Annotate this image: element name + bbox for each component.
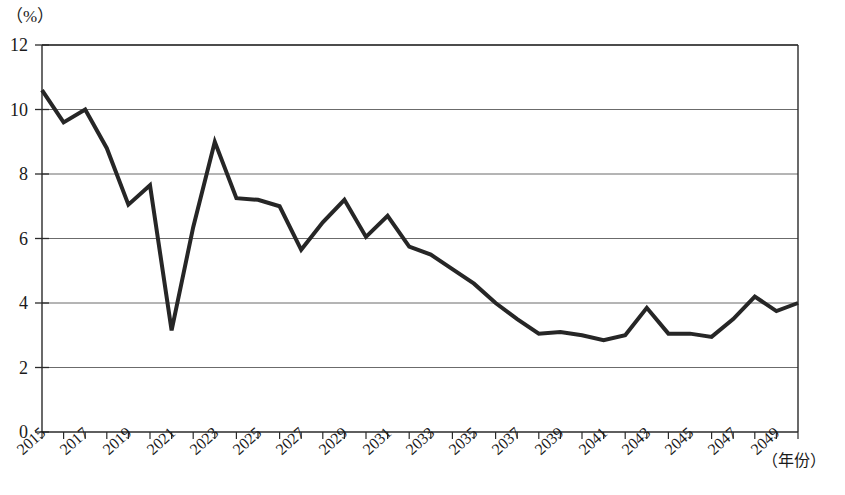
y-tick-label: 12 bbox=[2, 36, 28, 54]
plot-area bbox=[0, 0, 845, 495]
y-tick-label: 4 bbox=[2, 294, 28, 312]
gridlines bbox=[42, 45, 798, 368]
y-tick-label: 10 bbox=[2, 101, 28, 119]
x-axis-unit-label: （年份） bbox=[762, 447, 826, 471]
y-tick-label: 6 bbox=[2, 230, 28, 248]
y-tick-label: 8 bbox=[2, 165, 28, 183]
line-chart-figure: （%） 024681012 20152017201920212023202520… bbox=[0, 0, 845, 495]
y-tick-label: 2 bbox=[2, 359, 28, 377]
